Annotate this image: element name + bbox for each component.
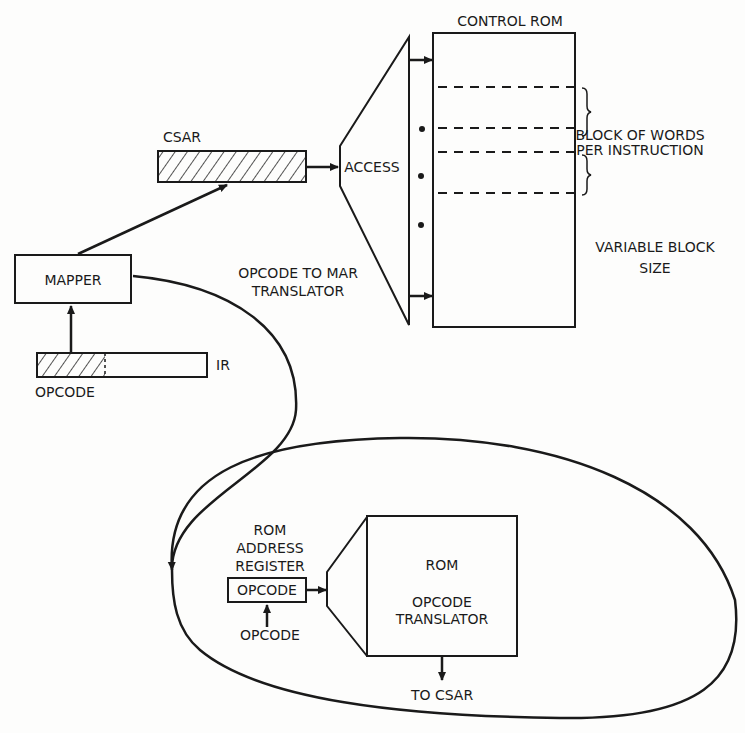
- control-rom: CONTROL ROM: [433, 13, 591, 327]
- rar-input-label: OPCODE: [240, 627, 300, 643]
- rom-line3: TRANSLATOR: [395, 611, 489, 627]
- variable-note-line2: SIZE: [639, 260, 670, 276]
- ellipsis-dot: [419, 126, 425, 132]
- rar-line3: REGISTER: [235, 558, 305, 574]
- ellipsis-dot: [418, 222, 424, 228]
- instruction-register: IR OPCODE: [35, 353, 230, 400]
- control-rom-title: CONTROL ROM: [457, 13, 563, 29]
- block-note-line2: PER INSTRUCTION: [576, 142, 703, 158]
- block-note-line1: BLOCK OF WORDS: [575, 127, 704, 143]
- rar-field: OPCODE: [237, 582, 297, 598]
- rom-output-label: TO CSAR: [410, 687, 474, 703]
- rom-line1: ROM: [426, 557, 459, 573]
- translator-note-line1: OPCODE TO MAR: [238, 265, 358, 281]
- mapper-label: MAPPER: [44, 272, 101, 288]
- rar-line1: ROM: [254, 522, 287, 538]
- ir-label: IR: [216, 357, 230, 373]
- ir-opcode-label: OPCODE: [35, 384, 95, 400]
- rar-line2: ADDRESS: [236, 540, 304, 556]
- ellipsis-dot: [418, 173, 424, 179]
- rom-opcode-translator: ROM OPCODE TRANSLATOR TO CSAR: [327, 516, 517, 703]
- rom-line2: OPCODE: [412, 594, 472, 610]
- translator-note-line2: TRANSLATOR: [251, 283, 345, 299]
- csar-label: CSAR: [163, 129, 201, 145]
- block-dividers: [438, 87, 575, 193]
- control-rom-box: [433, 33, 575, 327]
- rom-address-register: ROM ADDRESS REGISTER OPCODE OPCODE: [228, 522, 326, 643]
- diagram-svg: CONTROL ROM BLOCK OF WORDS PER INSTRUCTI…: [0, 0, 745, 733]
- access-label: ACCESS: [344, 159, 400, 175]
- microprogram-mapper-diagram: CONTROL ROM BLOCK OF WORDS PER INSTRUCTI…: [0, 0, 745, 733]
- mapper: MAPPER: [15, 185, 227, 353]
- csar-register: CSAR: [158, 129, 338, 182]
- variable-note-line1: VARIABLE BLOCK: [595, 239, 715, 255]
- access-decoder: ACCESS: [340, 37, 432, 325]
